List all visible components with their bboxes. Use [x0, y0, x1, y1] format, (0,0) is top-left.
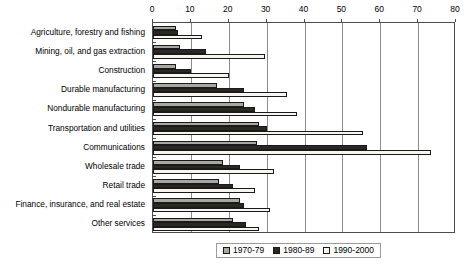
bar [153, 169, 274, 174]
x-axis-tick-label: 30 [261, 4, 270, 14]
x-axis-tick-label: 10 [185, 4, 194, 14]
chart-legend: 1970-791980-891990-2000 [216, 243, 381, 258]
gridline [267, 23, 268, 232]
y-axis-tick-mark [153, 42, 156, 43]
x-axis-tick-mark [341, 19, 342, 22]
bar [153, 188, 255, 193]
x-axis-tick-label: 70 [412, 4, 421, 14]
y-axis-category-label: Nondurable manufacturing [47, 103, 145, 113]
legend-entry: 1990-2000 [323, 245, 374, 256]
legend-label: 1980-89 [283, 245, 314, 256]
legend-entry: 1980-89 [273, 245, 314, 256]
x-axis-tick-mark [304, 19, 305, 22]
gridline [305, 23, 306, 232]
legend-swatch-icon [323, 247, 330, 254]
y-axis-tick-mark [153, 215, 156, 216]
x-axis-tick-mark [190, 19, 191, 22]
y-axis-category-label: Retail trade [103, 180, 145, 190]
y-axis-category-label: Construction [98, 65, 145, 75]
legend-swatch-icon [273, 247, 280, 254]
y-axis-category-label: Communications [83, 142, 145, 152]
x-axis-tick-label: 50 [337, 4, 346, 14]
bar [153, 150, 431, 155]
x-axis-tick-label: 0 [150, 4, 155, 14]
legend-label: 1990-2000 [333, 245, 374, 256]
x-axis-tick-labels: 01020304050607080 [0, 0, 465, 20]
legend-entry: 1970-79 [223, 245, 264, 256]
bar [153, 227, 259, 232]
y-axis-category-label: Wholesale trade [85, 161, 145, 171]
bar [153, 112, 297, 117]
bar [153, 54, 265, 59]
x-axis-tick-mark [379, 19, 380, 22]
bar [153, 208, 270, 213]
legend-label: 1970-79 [233, 245, 264, 256]
x-axis-tick-mark [152, 19, 153, 22]
y-axis-category-label: Transportation and utilities [48, 123, 145, 133]
x-axis-tick-mark [455, 19, 456, 22]
y-axis-category-label: Agriculture, forestry and fishing [31, 27, 145, 37]
y-axis-tick-mark [153, 119, 156, 120]
y-axis-category-label: Finance, insurance, and real estate [15, 199, 145, 209]
y-axis-tick-mark [153, 138, 156, 139]
gridline [380, 23, 381, 232]
y-axis-tick-mark [153, 61, 156, 62]
bar-chart: 01020304050607080 Agriculture, forestry … [0, 0, 465, 266]
y-axis-category-label: Other services [92, 218, 145, 228]
bar [153, 35, 202, 40]
bar [153, 131, 363, 136]
legend-swatch-icon [223, 247, 230, 254]
plot-area [152, 22, 455, 233]
bar [153, 92, 287, 97]
y-axis-tick-mark [153, 157, 156, 158]
x-axis-tick-label: 20 [223, 4, 232, 14]
bar [153, 73, 229, 78]
y-axis-category-label: Mining, oil, and gas extraction [35, 46, 145, 56]
y-axis-tick-mark [153, 81, 156, 82]
gridline [418, 23, 419, 232]
x-axis-tick-label: 80 [450, 4, 459, 14]
x-axis-tick-mark [228, 19, 229, 22]
y-axis-category-label: Durable manufacturing [61, 84, 145, 94]
y-axis-tick-mark [153, 100, 156, 101]
gridline [342, 23, 343, 232]
x-axis-tick-mark [266, 19, 267, 22]
y-axis-tick-mark [153, 176, 156, 177]
x-axis-tick-label: 40 [299, 4, 308, 14]
x-axis-tick-label: 60 [375, 4, 384, 14]
x-axis-tick-mark [417, 19, 418, 22]
y-axis-tick-mark [153, 196, 156, 197]
